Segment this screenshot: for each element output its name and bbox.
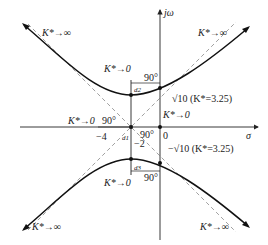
angle-right: 90° xyxy=(140,129,154,140)
k-inf-top-left: K*→∞ xyxy=(41,27,71,38)
k-zero-top: K*→0 xyxy=(103,63,131,74)
k-zero-left: K*→0 xyxy=(67,115,95,126)
root-locus-diagram: jω σ 0 −4 −2 K*→∞ K*→∞ K*→∞ K*→∞ K*→0 K*… xyxy=(0,0,268,245)
k-inf-bottom-left: K*→∞ xyxy=(31,221,61,232)
angle-bottom: 90° xyxy=(144,172,158,183)
k-zero-bottom: K*→0 xyxy=(103,177,131,188)
d1-label: d1 xyxy=(122,134,129,142)
k-inf-top-right: K*→∞ xyxy=(197,27,227,38)
origin-label: 0 xyxy=(163,130,168,141)
imag-axis-label: jω xyxy=(162,7,174,18)
angle-left: 90° xyxy=(102,115,116,126)
k-inf-bottom-right: K*→∞ xyxy=(199,221,229,232)
crossing-lower: −√10 (K*=3.25) xyxy=(168,143,234,155)
real-axis-label: σ xyxy=(246,130,252,141)
angle-top: 90° xyxy=(144,72,158,83)
k-zero-origin: K*→0 xyxy=(162,109,190,120)
tick-minus-4: −4 xyxy=(96,131,107,142)
d3-label: d3 xyxy=(134,164,142,172)
crossing-upper: √10 (K*=3.25) xyxy=(172,93,232,105)
d2-label: d2 xyxy=(134,86,142,94)
